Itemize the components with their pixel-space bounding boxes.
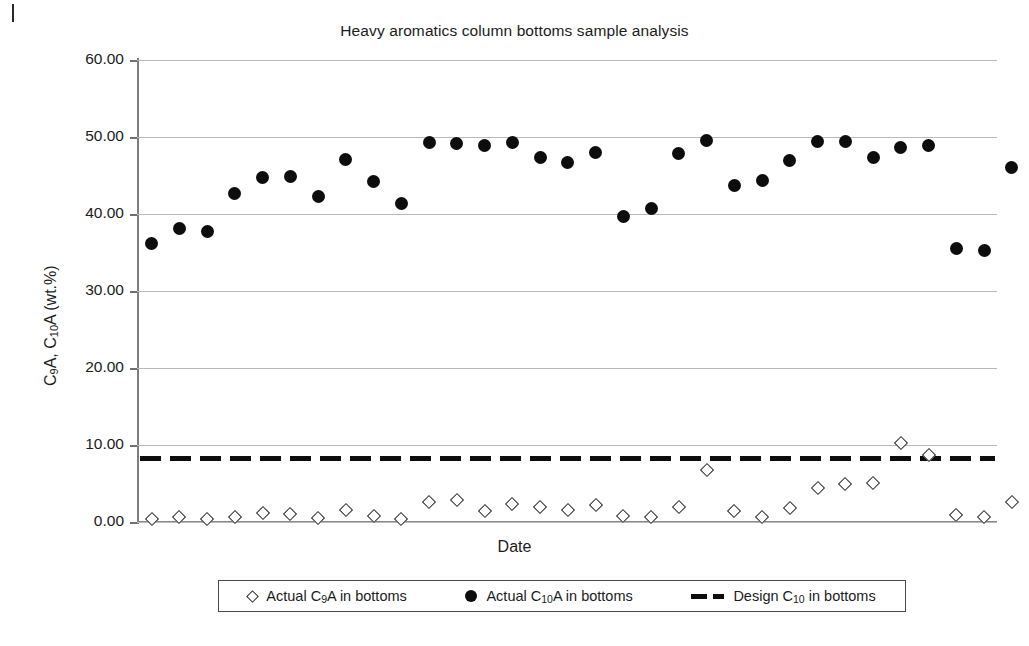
design-line-dash — [680, 456, 701, 461]
plot-area — [137, 60, 997, 522]
y-axis-tick — [130, 522, 137, 524]
design-line-dash — [710, 456, 731, 461]
data-point-c10a — [700, 134, 713, 147]
y-axis-tick-label: 10.00 — [85, 435, 124, 453]
data-point-c9a — [478, 504, 492, 518]
data-point-c10a — [173, 222, 186, 235]
design-line-dash — [950, 456, 971, 461]
chart-page: Heavy aromatics column bottoms sample an… — [0, 0, 1029, 646]
legend-label-actual-c9a: Actual C9A in bottoms — [266, 588, 406, 605]
data-point-c9a — [616, 509, 630, 523]
design-line-dash — [230, 456, 251, 461]
y-axis-tick — [130, 60, 137, 62]
data-point-c10a — [423, 136, 436, 149]
data-point-c10a — [228, 187, 241, 200]
y-axis-tick-label: 50.00 — [85, 127, 124, 145]
data-point-c9a — [700, 463, 714, 477]
gridline — [137, 291, 997, 292]
dashed-line-icon — [691, 594, 724, 599]
data-point-c9a — [422, 495, 436, 509]
data-point-c10a — [284, 170, 297, 183]
design-line-dash — [800, 456, 821, 461]
data-point-c9a — [589, 498, 603, 512]
data-point-c9a — [561, 503, 575, 517]
data-point-c9a — [505, 497, 519, 511]
design-line-dash — [560, 456, 581, 461]
data-point-c9a — [145, 512, 159, 526]
y-axis-tick-label: 60.00 — [85, 50, 124, 68]
design-line-dash — [200, 456, 221, 461]
data-point-c9a — [533, 500, 547, 514]
data-point-c9a — [200, 512, 214, 526]
data-point-c10a — [589, 146, 602, 159]
data-point-c10a — [534, 151, 547, 164]
data-point-c9a — [256, 506, 270, 520]
design-line-dash — [620, 456, 641, 461]
data-point-c9a — [311, 511, 325, 525]
legend-label-actual-c10a: Actual C10A in bottoms — [486, 588, 632, 605]
design-line-dash — [410, 456, 431, 461]
y-axis-label: C9A, C10A (wt.%) — [42, 265, 60, 386]
design-line-dash — [890, 456, 911, 461]
data-point-c9a — [394, 512, 408, 526]
design-line-dash — [590, 456, 611, 461]
data-point-c9a — [672, 500, 686, 514]
y-axis-tick — [130, 291, 137, 293]
legend-item-actual-c9a: Actual C9A in bottoms — [248, 588, 406, 605]
data-point-c10a — [811, 135, 824, 148]
gridline — [137, 368, 997, 369]
y-axis-tick-label: 20.00 — [85, 358, 124, 376]
data-point-c9a — [283, 506, 297, 520]
filled-circle-icon — [465, 590, 477, 602]
y-axis-tick-label: 40.00 — [85, 204, 124, 222]
data-point-c9a — [810, 481, 824, 495]
data-point-c10a — [756, 174, 769, 187]
design-line-dash — [260, 456, 281, 461]
data-point-c9a — [727, 504, 741, 518]
data-point-c10a — [201, 225, 214, 238]
data-point-c10a — [950, 242, 963, 255]
data-point-c9a — [783, 501, 797, 515]
x-axis-label: Date — [0, 538, 1029, 556]
y-axis-tick — [130, 214, 137, 216]
y-axis-tick-label: 0.00 — [94, 512, 124, 530]
data-point-c9a — [367, 509, 381, 523]
data-point-c10a — [145, 237, 158, 250]
data-point-c10a — [894, 141, 907, 154]
data-point-c9a — [339, 503, 353, 517]
legend-label-design-c10: Design C10 in bottoms — [733, 588, 875, 605]
design-line-dash — [350, 456, 371, 461]
gridline — [137, 522, 997, 523]
data-point-c10a — [728, 179, 741, 192]
data-point-c9a — [838, 476, 852, 490]
open-diamond-icon — [246, 590, 259, 603]
design-line-dash — [440, 456, 461, 461]
gridline — [137, 445, 997, 446]
data-point-c9a — [450, 493, 464, 507]
gridline — [137, 137, 997, 138]
gridline — [137, 60, 997, 61]
data-point-c10a — [478, 139, 491, 152]
design-line-dash — [470, 456, 491, 461]
gridline — [137, 214, 997, 215]
y-axis-tick-label: 30.00 — [85, 281, 124, 299]
data-point-c10a — [645, 202, 658, 215]
design-line-dash — [980, 456, 995, 461]
design-line-dash — [530, 456, 551, 461]
design-line-dash — [500, 456, 521, 461]
design-line-dash — [320, 456, 341, 461]
data-point-c10a — [839, 135, 852, 148]
data-point-c9a — [866, 476, 880, 490]
design-line-dash — [740, 456, 761, 461]
data-point-c10a — [312, 190, 325, 203]
data-point-c10a — [367, 175, 380, 188]
data-point-c9a — [1005, 495, 1019, 509]
design-line-dash — [170, 456, 191, 461]
data-point-c10a — [783, 154, 796, 167]
legend-item-actual-c10a: Actual C10A in bottoms — [465, 588, 632, 605]
data-point-c10a — [672, 147, 685, 160]
data-point-c10a — [617, 210, 630, 223]
page-edge-artifact — [12, 4, 14, 22]
data-point-c10a — [867, 151, 880, 164]
chart-legend: Actual C9A in bottoms Actual C10A in bot… — [218, 580, 906, 612]
